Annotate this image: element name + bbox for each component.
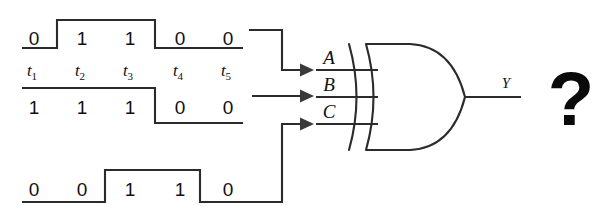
- time-label-t3-sub: 3: [128, 70, 134, 82]
- time-label-t5-sub: 5: [226, 70, 232, 82]
- waveform-b-bit-3: 0: [175, 97, 186, 118]
- time-axis-labels: t1 t2 t3 t4 t5: [27, 61, 232, 82]
- waveform-b-bit-0: 1: [29, 97, 40, 118]
- gate-input-label-c: C: [323, 101, 336, 122]
- waveform-b-bit-1: 1: [77, 97, 88, 118]
- connector-c: [248, 118, 314, 203]
- time-label-t2-sub: 2: [80, 70, 86, 82]
- time-label-t1: t1: [27, 61, 37, 82]
- gate-output: Y: [465, 75, 521, 97]
- waveform-b-bit-2: 1: [125, 97, 136, 118]
- waveform-c-bit-3: 1: [175, 179, 186, 200]
- svg-text:t2: t2: [75, 61, 85, 82]
- question-mark: ?: [548, 56, 594, 141]
- waveform-c-bit-2: 1: [125, 179, 136, 200]
- waveform-a-bit-2: 1: [125, 28, 136, 49]
- waveform-c-bit-1: 0: [77, 179, 88, 200]
- svg-text:t3: t3: [123, 61, 134, 82]
- waveform-a-bit-4: 0: [223, 28, 234, 49]
- waveform-c-group: 0 0 1 1 0: [22, 170, 248, 202]
- time-label-t4: t4: [173, 61, 184, 82]
- gate-output-label: Y: [502, 75, 512, 91]
- waveform-c-bit-4: 0: [223, 179, 234, 200]
- gate-input-label-a: A: [321, 47, 335, 68]
- gate-input-label-b: B: [323, 74, 335, 95]
- svg-text:t5: t5: [221, 61, 232, 82]
- logic-diagram: 0 1 1 0 0 t1 t2 t3 t4 t5: [0, 0, 612, 221]
- time-label-t3: t3: [123, 61, 134, 82]
- waveform-a-group: 0 1 1 0 0: [22, 20, 243, 49]
- connector-c-path: [248, 124, 300, 202]
- xor-gate-body: [366, 44, 465, 150]
- waveform-b-bit-4: 0: [223, 97, 234, 118]
- gate-pin-labels: A B C: [321, 47, 335, 122]
- waveform-c-bit-0: 0: [29, 179, 40, 200]
- svg-text:t4: t4: [173, 61, 184, 82]
- svg-text:t1: t1: [27, 61, 37, 82]
- time-label-t4-sub: 4: [178, 70, 184, 82]
- waveform-a-bit-1: 1: [77, 28, 88, 49]
- figure-canvas: 0 1 1 0 0 t1 t2 t3 t4 t5: [0, 0, 612, 221]
- connector-a: [249, 30, 314, 77]
- connector-b: [252, 90, 314, 103]
- waveform-b-group: 1 1 1 0 0: [22, 88, 243, 123]
- connector-a-path: [249, 30, 300, 70]
- connector-c-arrowhead: [300, 118, 314, 131]
- waveform-a-bit-0: 0: [29, 28, 40, 49]
- time-label-t5: t5: [221, 61, 232, 82]
- waveform-a-bit-3: 0: [175, 28, 186, 49]
- connector-a-arrowhead: [300, 64, 314, 77]
- time-label-t2: t2: [75, 61, 85, 82]
- connector-b-arrowhead: [300, 90, 314, 103]
- time-label-t1-sub: 1: [32, 70, 38, 82]
